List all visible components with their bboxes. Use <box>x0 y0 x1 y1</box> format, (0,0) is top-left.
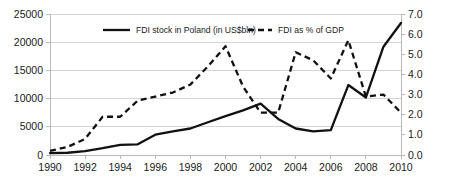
left-axis-tick-label: 25000 <box>14 8 43 20</box>
x-axis-tick-label: 1992 <box>73 161 97 173</box>
left-axis-tick-label: 15000 <box>14 64 43 76</box>
legend-label-fdi-stock: FDI stock in Poland (in US$bln) <box>136 25 256 35</box>
x-axis-tick-label: 2010 <box>389 161 413 173</box>
left-axis-tick-label: 0 <box>37 149 43 161</box>
x-axis-tick-label: 2000 <box>214 161 238 173</box>
right-axis-tick-label: 4.0 <box>408 68 423 80</box>
left-axis-tick-label: 5000 <box>20 120 44 132</box>
fdi-line-chart: 0500010000150002000025000 0.01.02.03.04.… <box>0 0 449 188</box>
x-axis-tick-label: 2006 <box>319 161 343 173</box>
right-axis-tick-label: 5.0 <box>408 48 423 60</box>
right-axis-tick-label: 2.0 <box>408 108 423 120</box>
right-axis-tick-label: 6.0 <box>408 28 423 40</box>
x-axis-tick-label: 1998 <box>179 161 203 173</box>
left-axis-tick-label: 10000 <box>14 92 43 104</box>
left-axis-tick-label: 20000 <box>14 36 43 48</box>
x-axis-tick-label: 1994 <box>109 161 133 173</box>
x-axis-tick-label: 2004 <box>284 161 308 173</box>
x-axis-tick-label: 1990 <box>38 161 62 173</box>
x-axis-tick-label: 2002 <box>249 161 273 173</box>
right-axis-tick-label: 3.0 <box>408 88 423 100</box>
right-axis-tick-label: 7.0 <box>408 8 423 20</box>
legend-label-fdi-pct-gdp: FDI as % of GDP <box>278 25 344 35</box>
chart-legend: FDI stock in Poland (in US$bln)FDI as % … <box>103 25 344 35</box>
x-axis-tick-label: 1996 <box>144 161 168 173</box>
chart-container: 0500010000150002000025000 0.01.02.03.04.… <box>0 0 449 188</box>
right-axis-tick-label: 0.0 <box>408 149 423 161</box>
x-axis-tick-label: 2008 <box>354 161 378 173</box>
right-axis-tick-label: 1.0 <box>408 128 423 140</box>
